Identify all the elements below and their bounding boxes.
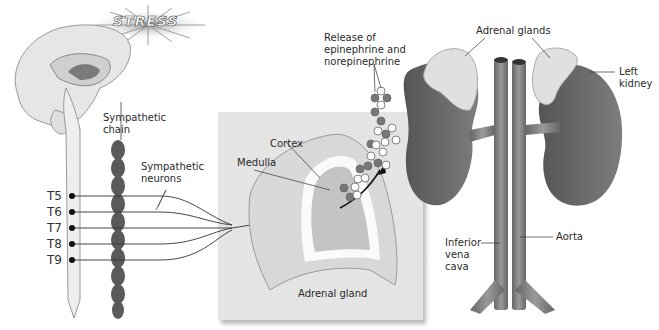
stress-label: STRESS bbox=[113, 15, 179, 27]
sympathetic-chain-label: Sympathetic chain bbox=[103, 112, 166, 136]
aorta-label: Aorta bbox=[556, 231, 583, 243]
left-kidney-label: Left kidney bbox=[619, 66, 652, 90]
adrenal-glands-label: Adrenal glands bbox=[476, 25, 551, 37]
spinal-level-t8: T8 bbox=[47, 237, 62, 251]
spinal-level-t7: T7 bbox=[47, 221, 62, 235]
spinal-level-t6: T6 bbox=[47, 205, 62, 219]
spinal-cord bbox=[64, 88, 80, 318]
inferior-vena-cava-label: Inferior vena cava bbox=[445, 237, 481, 273]
adrenal-gland-label: Adrenal gland bbox=[298, 288, 367, 300]
spinal-level-t9: T9 bbox=[47, 253, 62, 267]
sympathetic-chain bbox=[111, 140, 125, 319]
hormone-release-label: Release of epinephrine and norepinephrin… bbox=[324, 32, 406, 68]
spinal-level-t5: T5 bbox=[47, 189, 62, 203]
cortex-label: Cortex bbox=[270, 138, 303, 150]
medulla-label: Medulla bbox=[237, 157, 276, 169]
sympathetic-neurons-label: Sympathetic neurons bbox=[141, 161, 204, 185]
